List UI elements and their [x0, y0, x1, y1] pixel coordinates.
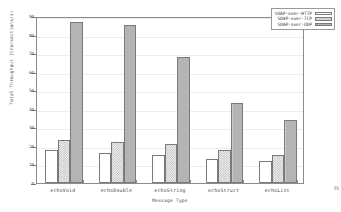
- bar-echoString-SOAP-over-TCP: [165, 144, 178, 183]
- x-tick-label-echoString: echoString: [154, 188, 185, 193]
- y-tick-label: 0: [8, 182, 34, 186]
- x-tick-mark: [99, 180, 100, 183]
- bar-echoString-SOAP-over-HTTP: [152, 155, 165, 183]
- bar-echoStruct-SOAP-over-TCP: [218, 150, 231, 183]
- x-tick-mark: [243, 180, 244, 183]
- bar-echoString-SOAP-over-UDP: [177, 57, 190, 183]
- y-tick-label: 70: [8, 52, 34, 56]
- x-tick-mark: [45, 180, 46, 183]
- bar-echoVoid-SOAP-over-TCP: [58, 140, 71, 183]
- bar-echoVoid-SOAP-over-HTTP: [45, 150, 58, 183]
- bar-echoDouble-SOAP-over-UDP: [124, 25, 137, 183]
- y-tick-label: 30: [8, 126, 34, 130]
- x-tick-label-echoDouble: echoDouble: [101, 188, 132, 193]
- y-tick-label: 40: [8, 108, 34, 112]
- x-tick-mark: [136, 180, 137, 183]
- legend-item-SOAP-over-UDP: SOAP-over-UDP: [275, 22, 332, 28]
- x-axis-title: Message Type: [36, 198, 304, 203]
- x-tick-mark: [190, 180, 191, 183]
- x-tick-label-echoVoid: echoVoid: [50, 188, 75, 193]
- bar-chart: Total Throughput (transactions/s) Messag…: [0, 0, 341, 212]
- bar-echoList-SOAP-over-TCP: [272, 155, 285, 183]
- gridline: [37, 18, 303, 19]
- legend-label: SOAP-over-TCP: [277, 16, 312, 21]
- y-tick-label: 10: [8, 163, 34, 167]
- legend-label: SOAP-over-HTTP: [275, 11, 312, 16]
- bar-echoDouble-SOAP-over-HTTP: [99, 153, 112, 183]
- bar-echoList-SOAP-over-HTTP: [259, 161, 272, 183]
- y-tick-label: 80: [8, 33, 34, 37]
- x-tick-mark: [206, 180, 207, 183]
- legend-swatch: [315, 17, 332, 20]
- bar-echoStruct-SOAP-over-HTTP: [206, 159, 219, 183]
- plot-area: [36, 17, 304, 184]
- y-tick-label: 90: [8, 15, 34, 19]
- legend-label: SOAP-over-UDP: [277, 22, 312, 27]
- x-tick-mark: [259, 180, 260, 183]
- bar-echoStruct-SOAP-over-UDP: [231, 103, 244, 183]
- legend-swatch: [315, 23, 332, 26]
- corner-note: 75: [334, 186, 339, 191]
- y-tick-label: 50: [8, 89, 34, 93]
- y-tick-label: 20: [8, 145, 34, 149]
- x-tick-mark: [297, 180, 298, 183]
- x-tick-label-echoStruct: echoStruct: [208, 188, 239, 193]
- x-tick-mark: [152, 180, 153, 183]
- bar-echoDouble-SOAP-over-TCP: [111, 142, 124, 183]
- y-tick-label: 60: [8, 70, 34, 74]
- legend: SOAP-over-HTTPSOAP-over-TCPSOAP-over-UDP: [271, 8, 335, 30]
- legend-swatch: [315, 12, 332, 15]
- bar-echoList-SOAP-over-UDP: [284, 120, 297, 183]
- x-tick-mark: [83, 180, 84, 183]
- bar-echoVoid-SOAP-over-UDP: [70, 22, 83, 183]
- x-tick-label-echoList: echoList: [265, 188, 290, 193]
